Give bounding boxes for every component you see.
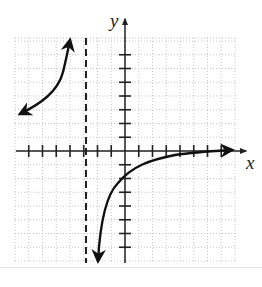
y-axis-label: y <box>108 10 119 31</box>
x-axis-label: x <box>245 152 255 173</box>
divider <box>0 267 262 268</box>
curve-right-branch <box>98 150 232 261</box>
curve-left-branch <box>20 40 70 114</box>
graph: x y <box>0 0 262 287</box>
